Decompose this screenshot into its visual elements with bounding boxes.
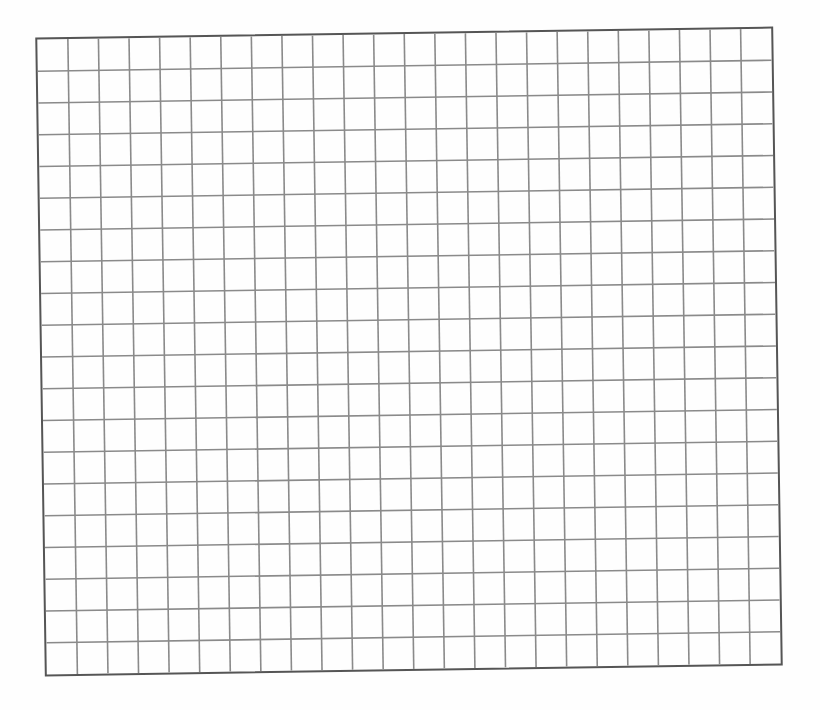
- grid-lines: [37, 28, 780, 674]
- graph-paper-grid: [35, 26, 783, 676]
- scanned-page: [0, 0, 820, 710]
